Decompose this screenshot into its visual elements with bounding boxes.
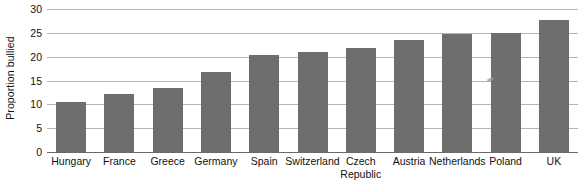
y-axis-title-text: Proportion bullied [4,36,16,120]
y-tick-label-25: 25 [30,28,42,39]
bar-austria [394,40,424,152]
x-axis-label-uk: UK [521,155,586,168]
y-tick-label-15: 15 [30,75,42,86]
bar-czech-republic [346,48,376,152]
bar-poland [491,33,521,152]
bar-france [104,94,134,152]
bars-series [47,9,578,152]
bar-hungary [56,102,86,152]
bar-greece [153,88,183,152]
y-tick-label-10: 10 [30,99,42,110]
y-tick-label-30: 30 [30,4,42,15]
x-axis-labels: HungaryFranceGreeceGermanySpainSwitzerla… [47,155,578,189]
y-tick-label-20: 20 [30,51,42,62]
bar-netherlands [442,34,472,152]
bar-chart: Proportion bullied 051015202530 HungaryF… [0,0,586,192]
y-axis-title: Proportion bullied [0,0,20,155]
plot-area: 051015202530 [47,9,578,152]
bar-germany [201,72,231,152]
y-tick-label-5: 5 [36,123,42,134]
bar-spain [249,55,279,152]
bar-uk [539,20,569,152]
gridline-0: 0 [47,152,578,153]
bar-switzerland [298,52,328,152]
